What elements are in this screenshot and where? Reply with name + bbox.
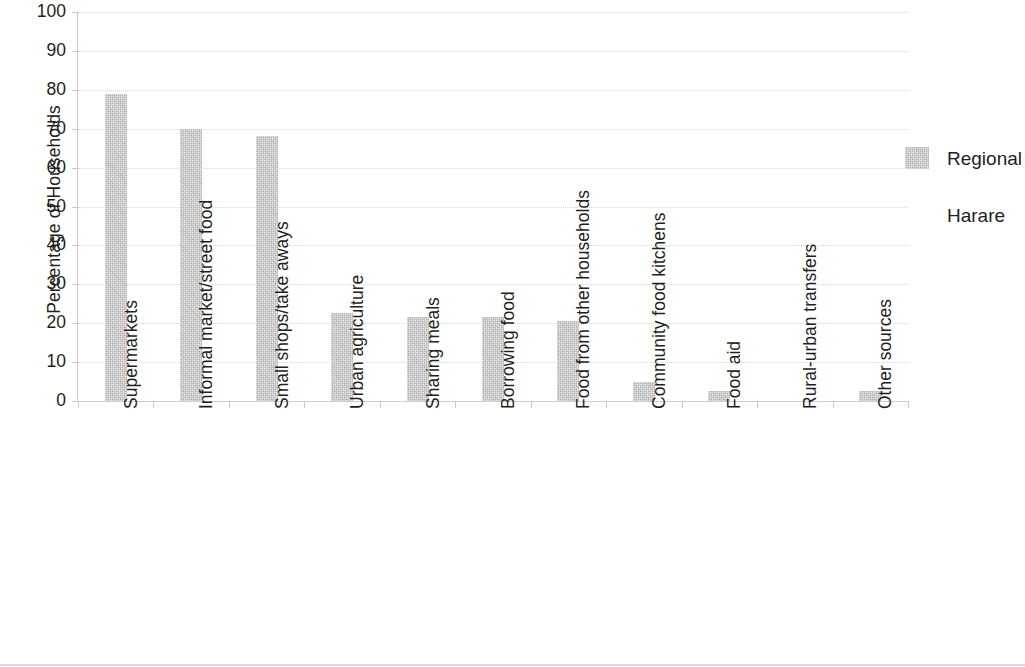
x-axis-label-text: Food from other households xyxy=(575,190,593,409)
x-axis-label-text: Community food kitchens xyxy=(651,213,669,409)
x-tick-mark xyxy=(833,401,834,408)
x-tick-mark xyxy=(908,401,909,408)
x-axis-label-text: Food aid xyxy=(726,341,744,409)
x-axis-label-text: Sharing meals xyxy=(425,297,443,409)
y-tick-label-100: 100 xyxy=(10,3,66,21)
legend-item-harare[interactable]: Harare xyxy=(905,204,1005,226)
x-tick-mark xyxy=(153,401,154,408)
x-tick-mark xyxy=(606,401,607,408)
x-axis-label-text: Small shops/take aways xyxy=(274,221,292,409)
legend-label-regional: Regional xyxy=(947,149,1022,168)
gridline-70 xyxy=(78,129,908,130)
gridline-80 xyxy=(78,90,908,91)
y-tick-label-0: 0 xyxy=(10,392,66,410)
y-tick-label-10: 10 xyxy=(10,353,66,371)
legend-swatch-regional xyxy=(905,147,929,169)
x-axis-label-text: Other sources xyxy=(877,299,895,409)
bottom-rule xyxy=(0,664,1025,666)
gridline-60 xyxy=(78,168,908,169)
legend-item-regional[interactable]: Regional xyxy=(905,147,1022,169)
gridline-90 xyxy=(78,51,908,52)
x-tick-mark xyxy=(455,401,456,408)
y-tick-label-20: 20 xyxy=(10,314,66,332)
y-tick-label-50: 50 xyxy=(10,198,66,216)
y-tick-label-90: 90 xyxy=(10,42,66,60)
x-tick-mark xyxy=(229,401,230,408)
x-axis-label-text: Urban agriculture xyxy=(349,275,367,409)
y-tick-label-40: 40 xyxy=(10,236,66,254)
x-axis-label-text: Borrowing food xyxy=(500,291,518,409)
x-axis-label-text: Supermarkets xyxy=(123,300,141,409)
bar-chart: Percentage of Households 010203040506070… xyxy=(0,0,1025,667)
x-tick-mark xyxy=(682,401,683,408)
y-tick-label-70: 70 xyxy=(10,120,66,138)
x-tick-mark xyxy=(78,401,79,408)
x-tick-mark xyxy=(304,401,305,408)
legend-swatch-harare xyxy=(905,204,929,226)
legend-label-harare: Harare xyxy=(947,206,1005,225)
x-axis-label-text: Informal market/street food xyxy=(198,200,216,409)
y-tick-label-60: 60 xyxy=(10,159,66,177)
x-tick-mark xyxy=(757,401,758,408)
y-tick-label-30: 30 xyxy=(10,275,66,293)
y-tick-label-80: 80 xyxy=(10,81,66,99)
gridline-100 xyxy=(78,12,908,13)
x-tick-mark xyxy=(531,401,532,408)
x-axis-label-text: Rural-urban transfers xyxy=(802,244,820,409)
x-tick-mark xyxy=(380,401,381,408)
